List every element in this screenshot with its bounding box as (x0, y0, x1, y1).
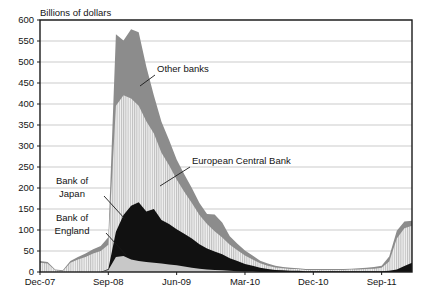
annotation-label: Japan (59, 188, 85, 199)
y-tick-label: 250 (18, 161, 34, 172)
y-tick-label: 400 (18, 98, 34, 109)
x-tick-label: Jun-09 (162, 276, 191, 287)
y-tick-label: 450 (18, 77, 34, 88)
y-tick-label: 300 (18, 140, 34, 151)
chart-container: 050100150200250300350400450500550600 Dec… (0, 0, 427, 304)
annotation-label: Bank of (56, 212, 89, 223)
annotation-label: Bank of (56, 175, 89, 186)
stacked-area-chart: 050100150200250300350400450500550600 Dec… (0, 0, 427, 304)
y-axis-title: Billions of dollars (40, 7, 112, 18)
y-tick-label: 500 (18, 56, 34, 67)
x-tick-label: Sep-08 (93, 276, 124, 287)
annotation-label: England (55, 225, 90, 236)
x-tick-label: Dec-07 (25, 276, 56, 287)
y-tick-label: 150 (18, 203, 34, 214)
y-tick-label: 350 (18, 119, 34, 130)
annotation-label: European Central Bank (192, 155, 291, 166)
x-tick-label: Sep-11 (367, 276, 397, 287)
annotation-label: Other banks (157, 63, 209, 74)
y-tick-label: 50 (23, 245, 34, 256)
y-tick-label: 600 (18, 14, 34, 25)
x-tick-label: Dec-10 (298, 276, 329, 287)
y-tick-label: 100 (18, 224, 34, 235)
y-tick-label: 200 (18, 182, 34, 193)
x-tick-label: Mar-10 (230, 276, 260, 287)
y-tick-label: 550 (18, 35, 34, 46)
